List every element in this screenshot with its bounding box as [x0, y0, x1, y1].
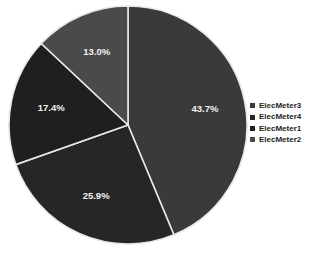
pie-svg: 43.7%25.9%17.4%13.0% — [8, 2, 248, 247]
pie-chart-figure: 43.7%25.9%17.4%13.0% ElecMeter3ElecMeter… — [0, 0, 325, 256]
pie-slice-label: 25.9% — [83, 190, 110, 201]
legend-swatch-icon — [250, 126, 255, 131]
legend-swatch-icon — [250, 137, 255, 142]
legend-swatch-icon — [250, 103, 255, 108]
legend-item[interactable]: ElecMeter4 — [250, 111, 322, 122]
page-bottom-margin — [0, 248, 325, 256]
legend-item[interactable]: ElecMeter2 — [250, 134, 322, 145]
legend-item-label: ElecMeter3 — [259, 100, 301, 111]
legend-item-label: ElecMeter2 — [259, 134, 301, 145]
legend-item-label: ElecMeter4 — [259, 111, 301, 122]
pie-slice-group — [9, 6, 247, 244]
pie-plot-area: 43.7%25.9%17.4%13.0% — [8, 2, 248, 247]
legend-item-label: ElecMeter1 — [259, 123, 301, 134]
legend-item[interactable]: ElecMeter1 — [250, 123, 322, 134]
pie-slice-label: 43.7% — [192, 103, 219, 114]
legend-item[interactable]: ElecMeter3 — [250, 100, 322, 111]
pie-slice-label: 17.4% — [38, 102, 65, 113]
legend-swatch-icon — [250, 115, 255, 120]
pie-slice-label: 13.0% — [83, 46, 110, 57]
chart-legend: ElecMeter3ElecMeter4ElecMeter1ElecMeter2 — [250, 100, 322, 146]
